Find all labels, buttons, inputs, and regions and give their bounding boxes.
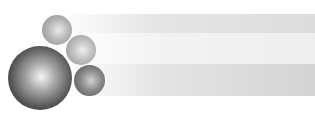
sphere-large-icon [8, 46, 72, 110]
sphere-middle-icon [66, 35, 96, 65]
sphere-top-icon [42, 15, 72, 45]
gradient-band-middle [60, 33, 315, 64]
gradient-band-top [60, 14, 315, 33]
sphere-lower-icon [74, 65, 105, 96]
